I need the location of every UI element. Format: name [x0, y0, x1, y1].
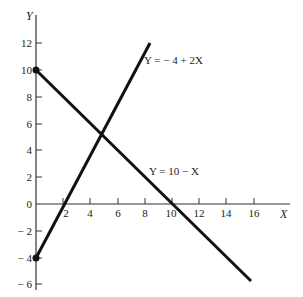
line-y-minus4-plus-2x	[36, 43, 150, 258]
y-tick-label: 12	[21, 37, 32, 49]
origin-label: 0	[27, 198, 33, 210]
point-marker	[33, 67, 40, 74]
x-ticks	[63, 198, 254, 204]
x-tick-labels: 2 4 6 8 10 12 14 16	[63, 207, 260, 219]
x-tick-label: 8	[142, 207, 148, 219]
x-tick-label: 10	[166, 207, 178, 219]
x-tick-label: 16	[249, 207, 261, 219]
y-tick-label: 6	[27, 118, 33, 130]
line2-label: Y = 10 − X	[149, 165, 199, 177]
y-tick-label: − 2	[18, 225, 32, 237]
x-tick-label: 2	[63, 207, 69, 219]
y-tick-label: − 6	[18, 278, 33, 290]
y-tick-labels: 12 10 8 6 4 2 0 − 2 − 4 − 6	[18, 37, 33, 290]
x-tick-label: 14	[221, 207, 233, 219]
x-tick-label: 12	[194, 207, 205, 219]
y-tick-label: 10	[21, 64, 33, 76]
line1-label: Y = − 4 + 2X	[144, 54, 203, 66]
y-tick-label: 2	[27, 171, 33, 183]
x-axis-title: X	[279, 207, 288, 221]
x-tick-label: 4	[87, 207, 93, 219]
y-axis-title: Y	[26, 9, 34, 23]
y-tick-label: − 4	[18, 252, 33, 264]
y-tick-label: 8	[27, 91, 33, 103]
line-y-10-minus-x	[36, 70, 251, 281]
y-tick-label: 4	[27, 144, 33, 156]
point-marker	[33, 255, 40, 262]
x-tick-label: 6	[115, 207, 121, 219]
chart: Y X 12 10 8 6 4 2 0 − 2 − 4 − 6 2	[0, 0, 303, 297]
